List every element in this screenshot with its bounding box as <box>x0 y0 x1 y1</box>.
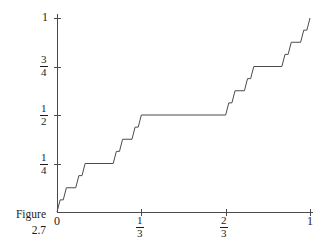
x-tick-label-0-text: 0 <box>54 214 60 228</box>
y-tick-label-1: 1 <box>42 11 48 23</box>
fraction-two-thirds: 2 3 <box>220 215 228 239</box>
cantor-staircase-curve <box>57 18 310 212</box>
x-tick-label-two-thirds: 2 3 <box>220 215 228 239</box>
cantor-function-figure: 1 3 4 1 2 1 4 0 1 3 2 <box>0 0 326 249</box>
cantor-function-plot <box>0 0 326 249</box>
axis-group <box>57 14 313 213</box>
y-tick-label-three-quarters: 3 4 <box>40 54 48 78</box>
fraction-denominator: 3 <box>136 228 144 239</box>
fraction-numerator: 1 <box>40 152 48 163</box>
fraction-numerator: 1 <box>40 103 48 114</box>
fraction-denominator: 4 <box>40 67 48 78</box>
x-tick-label-0: 0 <box>54 215 60 227</box>
y-tick-label-one-half: 1 2 <box>40 103 48 127</box>
fraction-three-quarters: 3 4 <box>40 54 48 78</box>
fraction-numerator: 3 <box>40 54 48 65</box>
y-tick-label-one-quarter: 1 4 <box>40 152 48 176</box>
fraction-denominator: 4 <box>40 165 48 176</box>
fraction-numerator: 1 <box>136 215 144 226</box>
fraction-numerator: 2 <box>220 215 228 226</box>
x-tick-label-1-text: 1 <box>307 214 313 228</box>
x-tick-label-1: 1 <box>307 215 313 227</box>
fraction-one-half: 1 2 <box>40 103 48 127</box>
x-tick-label-one-third: 1 3 <box>136 215 144 239</box>
figure-caption: Figure 2.7 <box>2 207 46 239</box>
fraction-denominator: 3 <box>220 228 228 239</box>
y-tick-label-1-text: 1 <box>42 10 48 24</box>
figure-caption-line-2: 2.7 <box>2 223 46 239</box>
fraction-one-third: 1 3 <box>136 215 144 239</box>
fraction-one-quarter: 1 4 <box>40 152 48 176</box>
figure-caption-line-1: Figure <box>2 207 46 223</box>
fraction-denominator: 2 <box>40 116 48 127</box>
